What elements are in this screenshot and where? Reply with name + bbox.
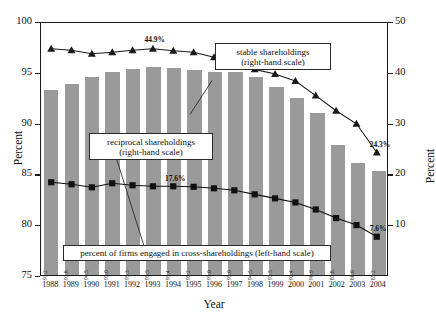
y-tick-left-75: 75 (2, 269, 32, 280)
y-tick-right-20: 20 (395, 167, 425, 178)
marker-reciprocal-2001 (313, 206, 319, 212)
marker-stable-2003 (352, 120, 360, 127)
annotation-reciprocal-line1: reciprocal shareholdings (94, 137, 208, 147)
leader-line-stable (190, 81, 212, 115)
marker-stable-2004 (373, 149, 381, 156)
marker-reciprocal-1995 (191, 184, 197, 190)
point-label-reciprocal-7.6: 7.6% (370, 224, 387, 233)
marker-stable-2002 (332, 107, 340, 114)
marker-reciprocal-1991 (109, 180, 115, 186)
marker-reciprocal-1993 (150, 183, 156, 189)
marker-reciprocal-1992 (130, 182, 136, 188)
y-tickmark-left (35, 276, 40, 277)
annotation-stable-line2: (right-hand scale) (220, 57, 326, 67)
marker-reciprocal-1996 (211, 185, 217, 191)
marker-reciprocal-1999 (272, 195, 278, 201)
point-label-reciprocal-17.6: 17.6% (165, 174, 185, 183)
marker-reciprocal-1989 (68, 181, 74, 187)
y-tick-right-30: 30 (395, 117, 425, 128)
point-label-stable-24.3: 24.3% (370, 140, 390, 149)
leader-line-reciprocal (117, 159, 145, 247)
marker-reciprocal-2002 (333, 215, 339, 221)
y-tickmark-right (388, 124, 393, 125)
annotation-stable-line1: stable shareholdings (220, 47, 326, 57)
y-tick-left-80: 80 (2, 218, 32, 229)
y-tickmark-right (388, 73, 393, 74)
y-tick-right-50: 50 (395, 15, 425, 26)
marker-reciprocal-1998 (252, 191, 258, 197)
marker-stable-2001 (312, 92, 320, 99)
annotation-reciprocal-shareholdings: reciprocal shareholdings (right-hand sca… (89, 133, 213, 160)
annotation-reciprocal-line2: (right-hand scale) (94, 147, 208, 157)
y-tick-left-100: 100 (2, 15, 32, 26)
marker-reciprocal-2000 (292, 199, 298, 205)
point-label-stable-44.9: 44.9% (145, 35, 165, 44)
marker-reciprocal-1994 (170, 183, 176, 189)
marker-reciprocal-2004 (374, 234, 380, 240)
x-tick-2004: 2004 (363, 280, 393, 289)
y-tickmark-right (388, 225, 393, 226)
marker-reciprocal-2003 (353, 222, 359, 228)
y-tick-right-10: 10 (395, 218, 425, 229)
y-axis-left-title: Percent (12, 108, 24, 188)
marker-stable-1988 (47, 45, 55, 52)
annotation-cross-shareholdings: percent of firms engaged in cross-shareh… (63, 245, 331, 261)
annotation-stable-shareholdings: stable shareholdings (right-hand scale) (215, 43, 331, 70)
y-axis-right-title: Percent (424, 126, 436, 206)
marker-stable-1993 (149, 45, 157, 52)
marker-reciprocal-1997 (231, 187, 237, 193)
plot-area: 93.293.894.595.095.395.595.495.295.095.0… (40, 22, 388, 276)
y-tick-left-95: 95 (2, 66, 32, 77)
x-axis-title: Year (0, 298, 428, 310)
marker-reciprocal-1990 (89, 184, 95, 190)
annotation-bars-line1: percent of firms engaged in cross-shareh… (68, 248, 326, 258)
y-tickmark-right (388, 174, 393, 175)
y-tick-right-40: 40 (395, 66, 425, 77)
y-tickmark-right (388, 22, 393, 23)
marker-reciprocal-1988 (48, 179, 54, 185)
